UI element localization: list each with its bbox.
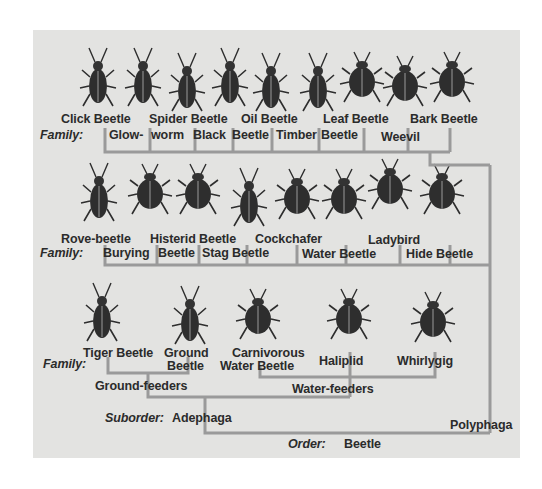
beetle-oil-icon [253, 53, 289, 111]
beetle-hide-icon [420, 164, 464, 214]
label-order-beetle: Beetle [344, 438, 381, 451]
label-bark-beetle: Bark Beetle [410, 113, 478, 126]
beetle-whirlygig-icon [411, 292, 455, 342]
beetle-weevil-icon [383, 56, 427, 106]
label-rove-beetle: Rove-beetle [61, 233, 131, 246]
beetle-spider-icon [169, 53, 205, 111]
label-leaf-beetle: Leaf Beetle [323, 113, 389, 126]
beetle-timber-icon [300, 53, 336, 111]
label-stag-beetle: Stag Beetle [202, 247, 269, 260]
label-ladybird: Ladybird [368, 234, 420, 247]
order-label: Order: [288, 438, 326, 451]
family-label-row3: Family: [43, 358, 86, 371]
family-label-row1: Family: [40, 129, 83, 142]
beetle-water-icon [322, 169, 366, 219]
label-burying: Burying [103, 247, 150, 260]
label-black-beetle: Beetle [232, 129, 269, 142]
beetle-burying-icon [128, 164, 172, 214]
label-black: Black [193, 129, 226, 142]
beetle-cockchafer-icon [275, 169, 319, 219]
label-adephaga: Adephaga [172, 412, 232, 425]
beetle-carnivorous-water-icon [236, 289, 280, 339]
family-label-row2: Family: [40, 247, 83, 260]
suborder-label: Suborder: [105, 412, 164, 425]
label-ground-feeders: Ground-feeders [95, 380, 187, 393]
label-timber-beetle: Beetle [321, 129, 358, 142]
label-timber: Timber [276, 129, 317, 142]
label-oil-beetle: Oil Beetle [241, 113, 298, 126]
beetle-bark-icon [430, 52, 474, 102]
beetle-ladybird-icon [368, 159, 412, 209]
label-ground-beetle: Beetle [167, 360, 204, 373]
beetle-haliplid-icon [327, 289, 371, 339]
label-burying-beetle: Beetle [158, 247, 195, 260]
label-cockchafer: Cockchafer [255, 233, 322, 246]
label-haliplid: Haliplid [319, 355, 363, 368]
beetle-histerid-icon [176, 164, 220, 214]
label-click-beetle: Click Beetle [61, 113, 131, 126]
label-hide-beetle: Hide Beetle [406, 248, 473, 261]
label-water-feeders: Water-feeders [292, 383, 374, 396]
beetle-black-icon [212, 48, 248, 106]
beetle-ground-icon [172, 286, 208, 344]
label-carnivorous-water-beetle: Water Beetle [220, 360, 294, 373]
label-tiger-beetle: Tiger Beetle [83, 347, 153, 360]
label-water-beetle: Water Beetle [302, 248, 376, 261]
label-weevil: Weevil [381, 131, 420, 144]
label-polyphaga: Polyphaga [450, 419, 512, 432]
beetle-glowworm-icon [125, 48, 161, 106]
label-worm: worm [151, 129, 184, 142]
label-spider-beetle: Spider Beetle [149, 113, 228, 126]
beetle-rove-icon [81, 163, 117, 221]
beetle-leaf-icon [340, 52, 384, 102]
beetle-stag-icon [231, 168, 267, 226]
beetle-tiger-icon [84, 283, 120, 341]
label-histerid-beetle: Histerid Beetle [150, 233, 236, 246]
label-glow: Glow- [109, 129, 143, 142]
beetle-click-icon [80, 48, 116, 106]
label-whirlygig: Whirlygig [397, 355, 453, 368]
